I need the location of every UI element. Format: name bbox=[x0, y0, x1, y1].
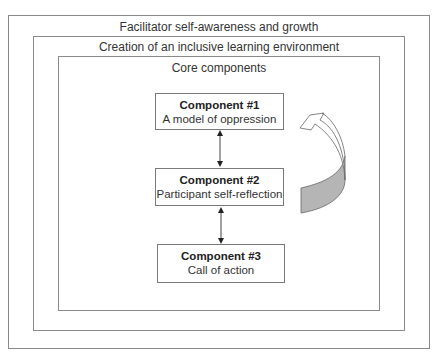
double-arrow-icon bbox=[217, 130, 223, 167]
double-arrow-icon bbox=[218, 207, 224, 244]
connectors-layer bbox=[0, 0, 439, 355]
curved-return-arrow-icon bbox=[300, 113, 345, 213]
